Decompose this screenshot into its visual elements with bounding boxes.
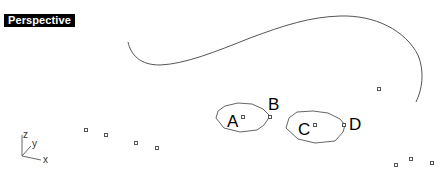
label-b: B	[268, 96, 279, 113]
point-marker[interactable]	[378, 88, 381, 91]
axis-label-y: y	[32, 139, 37, 149]
axis-label-x: x	[43, 155, 48, 165]
perspective-viewport[interactable]: Perspective z y x	[0, 0, 448, 175]
label-d: D	[349, 116, 361, 133]
point-marker[interactable]	[269, 116, 272, 119]
point-marker[interactable]	[314, 124, 317, 127]
point-marker[interactable]	[431, 162, 434, 165]
point-marker[interactable]	[85, 129, 88, 132]
point-marker[interactable]	[156, 147, 159, 150]
point-marker[interactable]	[410, 158, 413, 161]
point-marker[interactable]	[242, 116, 245, 119]
axis-label-z: z	[23, 130, 28, 140]
point-marker[interactable]	[395, 164, 398, 167]
label-c: C	[298, 121, 310, 138]
point-marker[interactable]	[135, 142, 138, 145]
point-marker[interactable]	[343, 124, 346, 127]
scene-canvas[interactable]	[0, 0, 448, 175]
label-a: A	[227, 113, 238, 130]
point-marker[interactable]	[105, 134, 108, 137]
